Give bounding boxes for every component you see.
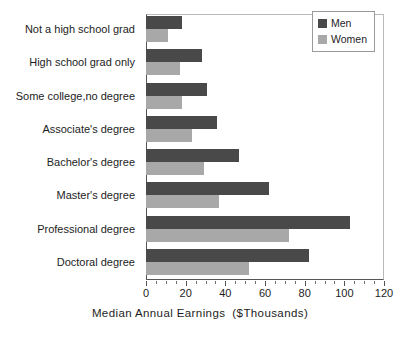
bar-men <box>146 182 269 195</box>
x-axis-major-tick <box>225 281 226 286</box>
x-axis-tick-label: 0 <box>143 287 149 300</box>
y-axis-category-label: Master's degree <box>0 180 140 213</box>
x-axis-major-tick <box>384 281 385 286</box>
bar-men <box>146 116 217 129</box>
bar-group <box>146 114 384 147</box>
bar-women <box>146 262 249 275</box>
x-axis-tick-label: 40 <box>219 287 231 300</box>
y-axis-category-label: Not a high school grad <box>0 14 140 47</box>
bar-women <box>146 29 168 42</box>
bar-women <box>146 96 182 109</box>
bar-women <box>146 62 180 75</box>
bar-groups <box>146 14 384 280</box>
bar-chart: Not a high school gradHigh school grad o… <box>0 0 400 337</box>
x-axis-tick-labels: 020406080100120 <box>146 287 384 301</box>
x-axis-tick-label: 60 <box>259 287 271 300</box>
x-axis-title-main: Median Annual Earnings <box>92 307 225 319</box>
bar-group <box>146 247 384 280</box>
x-axis-major-tick <box>265 281 266 286</box>
bar-men <box>146 49 202 62</box>
x-axis-major-tick <box>344 281 345 286</box>
legend-label: Women <box>331 34 367 45</box>
x-axis-tick-label: 120 <box>375 287 393 300</box>
legend-swatch-women-icon <box>318 35 327 44</box>
bar-women <box>146 162 204 175</box>
bar-group <box>146 81 384 114</box>
bar-women <box>146 195 219 208</box>
y-axis-category-label: Associate's degree <box>0 114 140 147</box>
bar-women <box>146 229 289 242</box>
legend: MenWomen <box>312 11 375 52</box>
x-axis-tick-label: 100 <box>335 287 353 300</box>
y-axis-category-labels: Not a high school gradHigh school grad o… <box>0 14 140 280</box>
bar-men <box>146 216 350 229</box>
legend-item-women: Women <box>318 33 367 46</box>
y-axis-category-label: Bachelor's degree <box>0 147 140 180</box>
y-axis-category-label: Some college,no degree <box>0 81 140 114</box>
x-axis-major-tick <box>305 281 306 286</box>
bar-group <box>146 180 384 213</box>
x-axis-major-tick <box>146 281 147 286</box>
x-axis-tick-label: 80 <box>299 287 311 300</box>
y-axis-category-label: Doctoral degree <box>0 247 140 280</box>
bar-group <box>146 214 384 247</box>
x-axis-major-ticks <box>146 281 384 286</box>
legend-swatch-men-icon <box>318 19 327 28</box>
plot-area <box>146 14 384 280</box>
legend-label: Men <box>331 18 351 29</box>
bar-women <box>146 129 192 142</box>
x-axis-tick-label: 20 <box>180 287 192 300</box>
bar-men <box>146 249 309 262</box>
bar-men <box>146 83 207 96</box>
bar-group <box>146 47 384 80</box>
bar-men <box>146 16 182 29</box>
bar-group <box>146 147 384 180</box>
y-axis-category-label: Professional degree <box>0 214 140 247</box>
bar-men <box>146 149 239 162</box>
x-axis-major-tick <box>186 281 187 286</box>
legend-item-men: Men <box>318 17 367 30</box>
y-axis-category-label: High school grad only <box>0 47 140 80</box>
x-axis-title: Median Annual Earnings($Thousands) <box>0 307 400 319</box>
x-axis-title-unit: ($Thousands) <box>232 307 308 319</box>
